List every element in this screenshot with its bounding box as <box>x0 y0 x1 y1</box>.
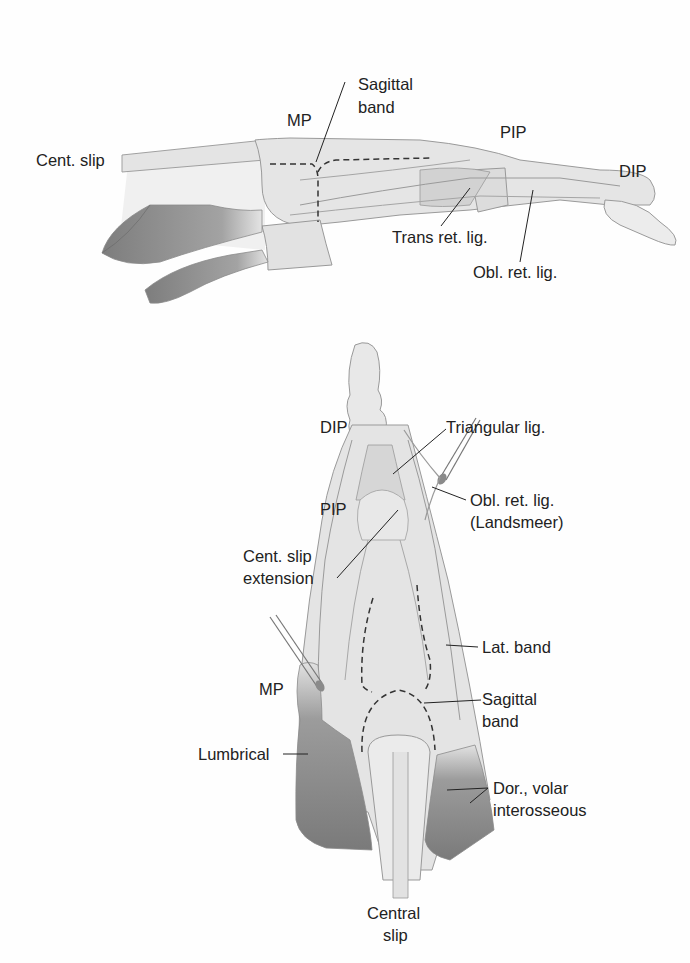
label-mp-lateral: MP <box>287 111 312 130</box>
label-obl-ret-lig-dorsal-line1: Obl. ret. lig. <box>470 491 554 510</box>
label-sagittal-band-dorsal-line1: Sagittal <box>482 690 537 709</box>
label-central-slip-line2: slip <box>383 926 408 945</box>
label-central-slip-line1: Central <box>367 904 420 923</box>
label-dip-dorsal: DIP <box>320 418 348 437</box>
label-cent-slip: Cent. slip <box>36 151 105 170</box>
label-pip-dorsal: PIP <box>320 500 347 519</box>
label-sagittal-band-lateral-line2: band <box>358 98 395 117</box>
label-obl-ret-lig-lateral: Obl. ret. lig. <box>473 263 557 282</box>
label-triangular-lig: Triangular lig. <box>446 418 545 437</box>
label-mp-dorsal: MP <box>259 680 284 699</box>
label-trans-ret-lig: Trans ret. lig. <box>392 228 488 247</box>
label-dip-lateral: DIP <box>619 162 647 181</box>
label-obl-ret-lig-dorsal-line2: (Landsmeer) <box>470 513 564 532</box>
extensor-mechanism-figure: Cent. slip MP Sagittal band PIP DIP Tran… <box>0 0 690 963</box>
label-cent-slip-extension-line2: extension <box>243 569 314 588</box>
label-lat-band: Lat. band <box>482 638 551 657</box>
label-lumbrical: Lumbrical <box>198 745 270 764</box>
label-sagittal-band-lateral-line1: Sagittal <box>358 75 413 94</box>
label-interosseous-line2: interosseous <box>493 801 587 820</box>
label-interosseous-line1: Dor., volar <box>493 779 568 798</box>
label-pip-lateral: PIP <box>500 123 527 142</box>
label-cent-slip-extension-line1: Cent. slip <box>243 547 312 566</box>
label-sagittal-band-dorsal-line2: band <box>482 712 519 731</box>
